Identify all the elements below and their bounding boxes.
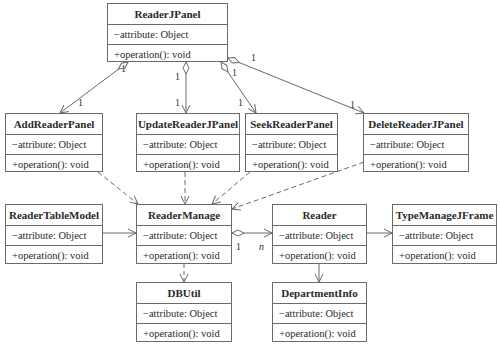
class-operation: +operation(): void xyxy=(6,246,102,265)
class-operation: +operation(): void xyxy=(393,246,496,265)
class-attribute: −attribute: Object xyxy=(137,304,231,324)
class-name: ReaderJPanel xyxy=(108,4,227,25)
class-attribute: −attribute: Object xyxy=(246,135,337,155)
class-name: UpdateReaderJPanel xyxy=(137,114,239,135)
class-typemanagejframe[interactable]: TypeManageJFrame −attribute: Object +ope… xyxy=(392,204,497,264)
class-name: Reader xyxy=(273,205,366,226)
class-name: DBUtil xyxy=(137,283,231,304)
class-readertablemodel[interactable]: ReaderTableModel −attribute: Object +ope… xyxy=(5,204,103,264)
multiplicity-update-source: 1 xyxy=(175,72,180,82)
multiplicity-add-target: 1 xyxy=(78,98,83,108)
multiplicity-delete-source: 1 xyxy=(251,53,256,63)
class-attribute: −attribute: Object xyxy=(273,226,366,246)
class-attribute: −attribute: Object xyxy=(273,304,366,324)
multiplicity-update-target: 1 xyxy=(175,98,180,108)
class-reader[interactable]: Reader −attribute: Object +operation(): … xyxy=(272,204,367,264)
multiplicity-seek-target: 1 xyxy=(238,98,243,108)
class-operation: +operation(): void xyxy=(273,246,366,265)
class-dbutil[interactable]: DBUtil −attribute: Object +operation(): … xyxy=(136,282,232,342)
class-attribute: −attribute: Object xyxy=(6,135,102,155)
class-name: DepartmentInfo xyxy=(273,283,366,304)
class-seekreaderpanel[interactable]: SeekReaderPanel −attribute: Object +oper… xyxy=(245,113,338,172)
class-name: ReaderTableModel xyxy=(6,205,102,226)
class-attribute: −attribute: Object xyxy=(108,25,227,45)
class-name: SeekReaderPanel xyxy=(246,114,337,135)
multiplicity-readermanage-source: 1 xyxy=(236,242,241,252)
class-operation: +operation(): void xyxy=(137,155,239,174)
class-departmentinfo[interactable]: DepartmentInfo −attribute: Object +opera… xyxy=(272,282,367,342)
multiplicity-reader-target: n xyxy=(259,242,264,252)
aggregation-readerjpanel-deletereaderjpanel xyxy=(228,58,364,113)
class-name: TypeManageJFrame xyxy=(393,205,496,226)
aggregation-readerjpanel-addreaderpanel xyxy=(60,62,128,113)
class-attribute: −attribute: Object xyxy=(364,135,468,155)
class-attribute: −attribute: Object xyxy=(6,226,102,246)
class-addreaderpanel[interactable]: AddReaderPanel −attribute: Object +opera… xyxy=(5,113,103,172)
class-attribute: −attribute: Object xyxy=(137,226,231,246)
multiplicity-seek-source: 1 xyxy=(232,68,237,78)
multiplicity-add-source: 1 xyxy=(121,64,126,74)
class-operation: +operation(): void xyxy=(137,324,231,343)
dependency-addreaderpanel-readermanage xyxy=(98,172,138,204)
class-operation: +operation(): void xyxy=(364,155,468,174)
class-operation: +operation(): void xyxy=(246,155,337,174)
class-operation: +operation(): void xyxy=(273,324,366,343)
class-name: ReaderManage xyxy=(137,205,231,226)
dependency-seekreaderpanel-readermanage xyxy=(212,172,250,204)
class-updatereaderjpanel[interactable]: UpdateReaderJPanel −attribute: Object +o… xyxy=(136,113,240,172)
class-name: DeleteReaderJPanel xyxy=(364,114,468,135)
class-readerjpanel[interactable]: ReaderJPanel −attribute: Object +operati… xyxy=(107,3,228,62)
class-attribute: −attribute: Object xyxy=(393,226,496,246)
class-readermanage[interactable]: ReaderManage −attribute: Object +operati… xyxy=(136,204,232,264)
class-name: AddReaderPanel xyxy=(6,114,102,135)
multiplicity-delete-target: 1 xyxy=(350,100,355,110)
class-deletereaderjpanel[interactable]: DeleteReaderJPanel −attribute: Object +o… xyxy=(363,113,469,172)
class-operation: +operation(): void xyxy=(108,45,227,64)
class-operation: +operation(): void xyxy=(6,155,102,174)
class-attribute: −attribute: Object xyxy=(137,135,239,155)
class-operation: +operation(): void xyxy=(137,246,231,265)
